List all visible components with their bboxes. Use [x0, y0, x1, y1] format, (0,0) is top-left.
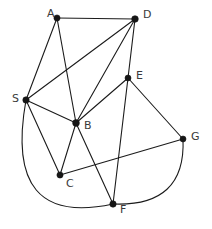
graph-node-label-c: C: [66, 177, 74, 190]
graph-edge-b-f: [76, 123, 113, 204]
graph-edge-d-s: [26, 19, 135, 100]
graph-edge-b-c: [60, 123, 76, 175]
graph-node-a[interactable]: [54, 15, 60, 21]
graph-node-b[interactable]: [73, 120, 80, 127]
graph-node-label-s: S: [12, 92, 19, 105]
graph-edge-e-b: [76, 78, 128, 123]
graph-node-label-b: B: [84, 119, 92, 132]
graph-node-s[interactable]: [23, 97, 29, 103]
graph-node-f[interactable]: [110, 201, 116, 207]
graph-node-e[interactable]: [125, 75, 131, 81]
edge-layer: [22, 18, 183, 208]
graph-diagram-svg: ADESBGCF: [0, 0, 212, 229]
graph-node-d[interactable]: [132, 16, 139, 23]
graph-node-label-a: A: [47, 7, 55, 20]
graph-edge-s-b: [26, 100, 76, 123]
graph-edge-s-c: [26, 100, 60, 175]
graph-diagram-canvas: ADESBGCF: [0, 0, 212, 229]
graph-node-label-g: G: [191, 130, 200, 143]
graph-edge-e-f: [113, 78, 128, 204]
graph-edge-a-d: [57, 18, 135, 19]
graph-edge-a-s: [26, 18, 57, 100]
graph-node-g[interactable]: [180, 136, 186, 142]
graph-edge-s-f: [22, 100, 113, 208]
graph-edge-d-e: [128, 19, 135, 78]
graph-edge-c-g: [60, 139, 183, 175]
graph-node-label-f: F: [120, 203, 126, 216]
graph-edge-d-b: [76, 19, 135, 123]
graph-edge-e-g: [128, 78, 183, 139]
graph-node-c[interactable]: [57, 172, 63, 178]
graph-node-label-d: D: [143, 8, 151, 21]
graph-node-label-e: E: [136, 69, 143, 82]
